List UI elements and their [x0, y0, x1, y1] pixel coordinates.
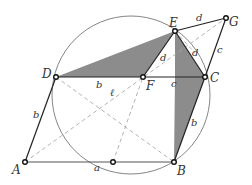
label-A: A: [11, 163, 21, 177]
segment-label-AB: a: [94, 162, 100, 173]
geometry-diagram: A B C D E F G b a b c d d d c b ℓ: [0, 0, 252, 185]
segment-label-EF: d: [160, 52, 166, 63]
point-D: [54, 75, 59, 80]
label-F: F: [145, 79, 155, 93]
point-midpoint-AB: [111, 160, 116, 165]
segment-label-AD: b: [33, 109, 39, 120]
segment-label-CB: b: [191, 117, 197, 128]
point-B: [172, 160, 177, 165]
segment-label-EC: d: [192, 47, 198, 58]
segment-label-diagonal: ℓ: [110, 87, 114, 98]
segment-label-EG: d: [196, 12, 202, 23]
point-F: [141, 75, 146, 80]
shaded-triangle-DEF: [56, 31, 175, 77]
segment-label-DF: b: [96, 79, 102, 90]
label-C: C: [210, 71, 219, 85]
point-G: [224, 16, 229, 21]
label-B: B: [176, 164, 186, 178]
segment-label-GC: c: [217, 44, 223, 55]
point-C: [203, 75, 208, 80]
label-E: E: [168, 16, 178, 30]
point-A: [23, 160, 28, 165]
segment-label-FC: c: [171, 78, 177, 89]
label-D: D: [41, 67, 52, 81]
label-G: G: [229, 15, 239, 29]
